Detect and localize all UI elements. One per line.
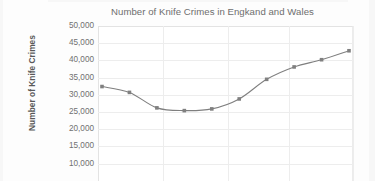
data-point-marker [210, 107, 214, 111]
data-point-marker [347, 49, 351, 53]
data-point-marker [128, 91, 132, 95]
chart-screenshot: Number of Knife Crimes in Engkand and Wa… [0, 0, 375, 181]
data-point-marker [100, 85, 104, 89]
data-point-marker [183, 109, 187, 113]
data-point-marker [292, 65, 296, 69]
series-line [102, 51, 349, 111]
data-point-marker [265, 78, 269, 82]
data-point-marker [237, 97, 241, 101]
data-point-marker [155, 106, 159, 110]
line-series-layer [0, 0, 375, 181]
series-markers [100, 49, 351, 112]
data-point-marker [320, 58, 324, 62]
